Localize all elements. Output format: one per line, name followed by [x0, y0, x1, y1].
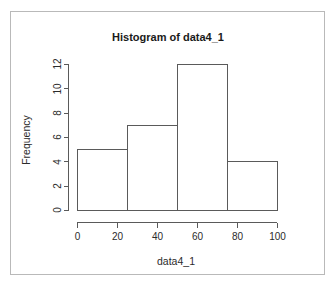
y-tick-label-4: 4	[52, 159, 63, 165]
histogram-bars	[78, 65, 278, 211]
y-axis-ticks: 0 2 4 6 8 10 12	[52, 58, 69, 213]
x-tick-label-60: 60	[192, 231, 204, 242]
x-axis-ticks: 0 20 40 60 80 100	[75, 223, 287, 243]
chart-title: Histogram of data4_1	[112, 31, 224, 43]
y-tick-label-10: 10	[52, 83, 63, 95]
y-tick-label-2: 2	[52, 183, 63, 189]
histogram-svg: Histogram of data4_1 Frequency data4_1 0…	[0, 0, 336, 286]
x-tick-label-100: 100	[269, 231, 286, 242]
histogram-bar-bin-0	[78, 150, 128, 211]
histogram-bar-bin-1	[128, 125, 178, 210]
x-tick-label-20: 20	[112, 231, 124, 242]
y-tick-label-12: 12	[52, 58, 63, 70]
histogram-plot: Histogram of data4_1 Frequency data4_1 0…	[0, 0, 336, 286]
y-tick-label-0: 0	[52, 207, 63, 213]
histogram-bar-bin-2	[178, 65, 228, 211]
y-tick-label-6: 6	[52, 134, 63, 140]
y-axis-title: Frequency	[20, 114, 32, 164]
x-tick-label-80: 80	[232, 231, 244, 242]
x-tick-label-40: 40	[152, 231, 164, 242]
x-axis-title: data4_1	[157, 255, 195, 267]
y-tick-label-8: 8	[52, 110, 63, 116]
x-tick-label-0: 0	[75, 231, 81, 242]
histogram-bar-bin-3	[228, 162, 278, 211]
